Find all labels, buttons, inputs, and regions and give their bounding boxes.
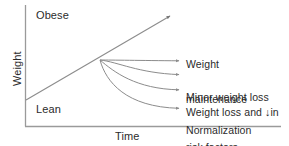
outcome-label-normalization-of-weight: Normalization of weight bbox=[186, 102, 252, 146]
obese-region-label: Obese bbox=[36, 10, 69, 22]
weight-loss-risk-factors-curve bbox=[100, 60, 179, 90]
x-axis-label: Time bbox=[115, 131, 139, 143]
outcome-line-1: Normalization bbox=[186, 125, 252, 137]
minor-weight-loss-curve bbox=[100, 60, 179, 75]
lean-region-label: Lean bbox=[36, 104, 61, 116]
y-axis-label: Weight bbox=[12, 39, 24, 99]
untreated-trajectory-line bbox=[26, 16, 170, 100]
weight-maintenance-curve bbox=[100, 60, 179, 61]
normalization-of-weight-curve bbox=[100, 60, 179, 108]
